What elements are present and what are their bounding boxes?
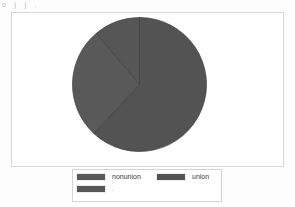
legend-label-union: union: [192, 173, 209, 181]
legend-item-union[interactable]: union: [156, 173, 209, 181]
legend-swatch-third: [76, 185, 106, 193]
legend-label-third: .: [112, 185, 114, 193]
legend-swatch-nonunion: [76, 173, 106, 181]
pie-chart[interactable]: [71, 16, 208, 153]
legend-item-third[interactable]: .: [76, 185, 114, 193]
legend-item-nonunion[interactable]: nonunion: [76, 173, 141, 181]
chart-legend: nonunion union .: [72, 169, 222, 202]
chart-frame: [11, 12, 284, 167]
scanned-header-text: o j j .: [0, 0, 295, 9]
pie-chart-plot-area: [12, 13, 285, 168]
legend-swatch-union: [156, 173, 186, 181]
legend-label-nonunion: nonunion: [112, 173, 141, 181]
